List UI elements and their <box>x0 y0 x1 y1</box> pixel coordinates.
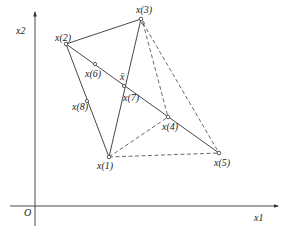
point-x3-reflect <box>142 22 145 25</box>
origin-label: O <box>24 207 31 218</box>
edge-x2-x5 <box>66 44 219 153</box>
label-x6: x(6) <box>84 68 102 80</box>
point-x7 <box>122 84 125 87</box>
y-axis-label: x2 <box>15 25 25 36</box>
label-centroid: x̄ <box>119 71 125 82</box>
point-x6 <box>93 62 96 65</box>
label-x1: x(1) <box>96 160 114 172</box>
label-x2: x(2) <box>54 32 72 44</box>
label-x5: x(5) <box>213 157 231 169</box>
edge-x3-x5 <box>143 23 219 153</box>
label-x4: x(4) <box>161 121 179 133</box>
edge-x1-x5 <box>109 153 219 157</box>
label-x8: x(8) <box>71 101 89 113</box>
point-x5 <box>217 151 221 155</box>
label-x3: x(3) <box>135 4 153 16</box>
point-x1 <box>107 155 111 159</box>
point-x3 <box>139 17 143 21</box>
edge-x3-x1 <box>109 19 141 157</box>
x-axis-label: x1 <box>253 212 263 223</box>
edge-x1-x4 <box>109 117 168 157</box>
edge-x2-x3 <box>66 19 141 44</box>
simplex-diagram: O x1 x2 x(1) x(2) x(3) x(4) x(5) x(6) x(… <box>0 0 284 235</box>
point-x4 <box>166 115 170 119</box>
label-x7: x(7) <box>122 92 140 104</box>
edge-x3-x4 <box>143 23 168 117</box>
